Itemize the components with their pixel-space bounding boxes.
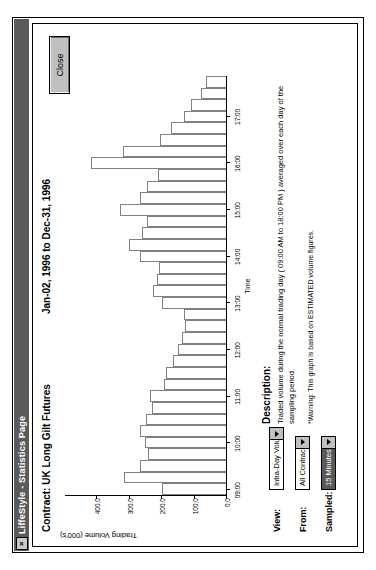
control-row-sampled: Sampled:15 Minutes [321, 436, 336, 532]
chart-y-tick-label: 400.0 [94, 498, 101, 528]
chart-bar [140, 425, 226, 437]
chart-bar [166, 367, 226, 379]
contract-title: Contract: UK Long Gilt Futures [41, 384, 52, 532]
chart-bar [147, 216, 226, 228]
chart-x-tick-label: 11:00 [234, 389, 241, 405]
control-label-from: From: [298, 490, 308, 532]
chart-bar [91, 157, 226, 169]
chart-bar [201, 88, 226, 100]
chart-y-axis [65, 495, 227, 496]
control-row-view: View:Intra-Day Volume [269, 436, 284, 532]
chart-bar [120, 204, 226, 216]
chart-bar [145, 437, 226, 449]
chart-x-tick-mark [227, 303, 230, 304]
statistics-page-window: × LiffeStyle - Statistics Page Contract:… [12, 17, 364, 553]
chart-y-tick-label: 0.0 [224, 498, 231, 528]
chart-x-tick-label: 09:00 [234, 482, 241, 498]
chart-x-tick-mark [227, 116, 230, 117]
description-body: Traded volume during the normal trading … [276, 64, 298, 424]
chart-bar [140, 460, 226, 472]
arrow-down-glyph [275, 431, 279, 437]
chart-bar [152, 402, 226, 414]
chart-x-tick-label: 16:00 [234, 155, 241, 171]
description-heading: Description: [261, 64, 272, 424]
chart-bars [65, 76, 226, 495]
chart-bar [157, 274, 226, 286]
chart-bar [171, 123, 226, 135]
chart-x-tick-label: 14:00 [234, 249, 241, 265]
chart-x-tick-mark [227, 209, 230, 210]
combobox-sampled[interactable]: 15 Minutes [321, 436, 336, 490]
controls-group: View:Intra-Day VolumeFrom:All ContractsS… [269, 436, 347, 532]
chart-y-tick-label: 100.0 [192, 498, 199, 528]
chevron-down-icon[interactable] [296, 437, 309, 449]
combobox-value-from: All Contracts [298, 443, 307, 489]
chart-bar [162, 483, 226, 495]
window-client-area: Contract: UK Long Gilt Futures Jan-02, 1… [29, 19, 362, 551]
chart-x-tick-label: 10:00 [234, 435, 241, 451]
combobox-view[interactable]: Intra-Day Volume [269, 427, 284, 490]
chart-x-axis-label: Time [244, 76, 251, 496]
chart-bar [123, 146, 226, 158]
chart-y-tick-label: 300.0 [127, 498, 134, 528]
screenshot-stage: × LiffeStyle - Statistics Page Contract:… [0, 0, 376, 570]
chart-x-tick-mark [227, 256, 230, 257]
chart-bar [140, 192, 226, 204]
chart-bar [147, 181, 226, 193]
chart-bar [191, 99, 226, 111]
chart-x-tick-mark [227, 489, 230, 490]
chart-bar [129, 239, 226, 251]
window-titlebar: × LiffeStyle - Statistics Page [14, 19, 29, 551]
chart-y-axis-label: Trading Volume (000's) [60, 531, 137, 540]
intraday-volume-chart: Trading Volume (000's) 0.0100.0200.0300.… [63, 70, 249, 532]
chart-bar [178, 344, 226, 356]
chart-bar [184, 309, 227, 321]
control-label-view: View: [272, 490, 282, 532]
control-label-sampled: Sampled: [324, 490, 334, 532]
window-title: LiffeStyle - Statistics Page [17, 416, 27, 534]
chart-x-tick-mark [227, 163, 230, 164]
chevron-down-icon[interactable] [270, 428, 283, 440]
chart-bar [146, 414, 227, 426]
chart-x-tick-label: 15:00 [234, 202, 241, 218]
description-warning: *Warning: This graph is based on ESTIMAT… [307, 64, 314, 424]
chart-x-tick-label: 13:00 [234, 295, 241, 311]
chart-bar [153, 285, 226, 297]
chart-bar [206, 76, 226, 88]
close-icon[interactable]: × [16, 537, 28, 550]
chart-bar [142, 227, 226, 239]
combobox-from[interactable]: All Contracts [295, 436, 310, 490]
chart-x-tick-mark [227, 396, 230, 397]
chart-bar [148, 448, 226, 460]
chart-bar [140, 251, 226, 263]
chart-bar [124, 472, 226, 484]
chart-bar [160, 134, 226, 146]
arrow-down-glyph [301, 440, 305, 446]
combobox-value-sampled: 15 Minutes [324, 449, 333, 489]
chart-bar [158, 169, 226, 181]
chart-x-tick-mark [227, 349, 230, 350]
chart-bar [182, 332, 226, 344]
chart-plot-area: 0.0100.0200.0300.0400.0 09:0010:0011:001… [65, 76, 227, 496]
chart-bar [184, 111, 227, 123]
chart-x-tick-mark [227, 443, 230, 444]
chart-y-tick-label: 200.0 [159, 498, 166, 528]
control-row-from: From:All Contracts [295, 436, 310, 532]
chart-x-tick-label: 12:00 [234, 342, 241, 358]
chart-bar [185, 320, 226, 332]
chart-bar [159, 262, 226, 274]
chevron-down-icon[interactable] [322, 437, 335, 449]
chart-bar [150, 390, 226, 402]
date-range: Jan-02, 1996 to Dec-31, 1996 [41, 179, 52, 314]
description-block: Description: Traded volume during the no… [261, 64, 314, 424]
chart-bar [173, 355, 226, 367]
arrow-down-glyph [327, 440, 331, 446]
chart-bar [162, 297, 226, 309]
content-panel: Contract: UK Long Gilt Futures Jan-02, 1… [32, 23, 358, 547]
chart-x-tick-label: 17:00 [234, 109, 241, 125]
chart-x-axis [226, 76, 227, 496]
chart-bar [164, 379, 226, 391]
